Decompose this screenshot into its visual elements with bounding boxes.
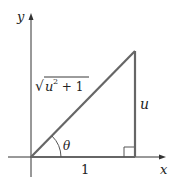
right-angle-marker: [124, 147, 134, 157]
adjacent-side-label: 1: [81, 162, 89, 177]
angle-arc: [52, 136, 61, 157]
hypotenuse: [31, 51, 135, 157]
radical-sign: √: [35, 78, 44, 94]
angle-label: θ: [63, 139, 71, 153]
right-triangle-diagram: y x √ u 2 + 1 u 1 θ: [0, 0, 175, 191]
opposite-side-label: u: [140, 96, 149, 112]
hypotenuse-rest: + 1: [58, 80, 83, 94]
y-axis-label: y: [16, 9, 25, 24]
x-axis-arrow-icon: [159, 155, 166, 160]
hypotenuse-label: √ u 2 + 1: [35, 77, 89, 94]
y-axis-arrow-icon: [29, 13, 34, 20]
x-axis-label: x: [160, 162, 168, 177]
